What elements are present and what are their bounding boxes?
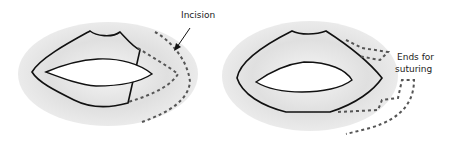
incision-arrow: [177, 28, 190, 47]
left-panel: Incision: [18, 10, 215, 126]
ends-label-line1: Ends for: [397, 52, 434, 62]
ends-label-line2: suturing: [395, 64, 432, 74]
right-panel: Ends for suturing: [222, 21, 434, 134]
incision-label: Incision: [181, 10, 215, 20]
lip-surgery-diagram: Incision Ends for suturing: [0, 0, 449, 142]
